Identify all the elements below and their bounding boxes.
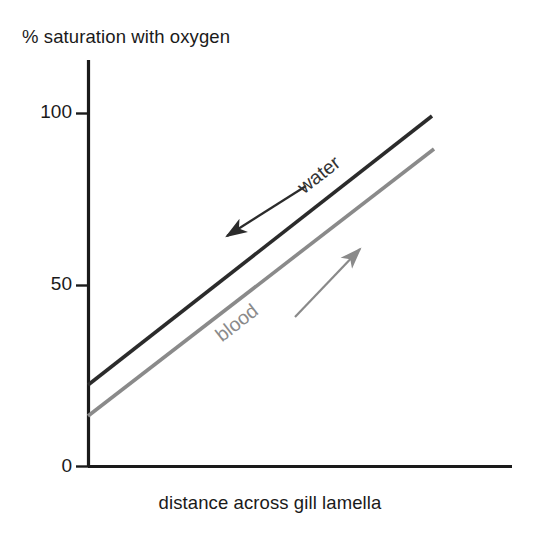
- gill-lamella-oxygen-saturation-chart: % saturation with oxygen 100 50 0 wate: [0, 0, 540, 534]
- blood-flow-arrow-icon: [295, 249, 360, 317]
- plot-area: [0, 0, 540, 534]
- series-line-water: [88, 116, 432, 385]
- x-axis-title: distance across gill lamella: [0, 492, 540, 514]
- water-flow-arrow-icon: [227, 186, 306, 236]
- series-line-blood: [88, 149, 434, 416]
